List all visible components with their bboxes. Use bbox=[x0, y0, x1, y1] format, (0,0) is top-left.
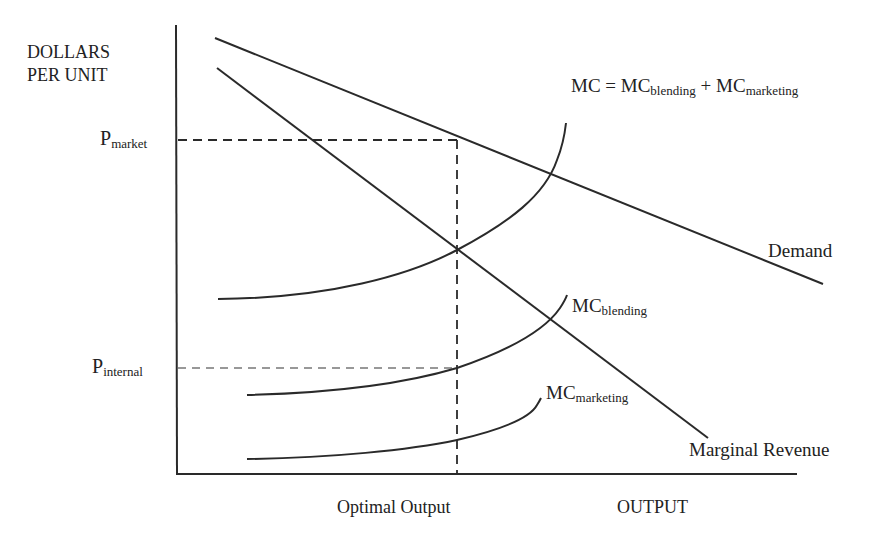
mc-total-curve bbox=[218, 123, 566, 299]
demand-label: Demand bbox=[768, 241, 832, 261]
p-market-label: Pmarket bbox=[100, 128, 147, 154]
mc-marketing-label: MCmarketing bbox=[546, 383, 628, 408]
optimal-output-label: Optimal Output bbox=[337, 497, 451, 517]
marginal-revenue-label: Marginal Revenue bbox=[689, 440, 830, 460]
mc-blending-label: MCblending bbox=[572, 296, 647, 321]
mc-blending-curve bbox=[247, 295, 567, 395]
p-internal-label: Pinternal bbox=[92, 356, 143, 382]
mc-total-label: MC = MCblending + MCmarketing bbox=[571, 76, 798, 101]
y-axis bbox=[176, 25, 177, 475]
marginal-revenue-line bbox=[217, 68, 708, 438]
x-axis-label: OUTPUT bbox=[617, 497, 688, 517]
mc-marketing-curve bbox=[247, 398, 541, 459]
y-axis-label: DOLLARS PER UNIT bbox=[27, 42, 110, 85]
